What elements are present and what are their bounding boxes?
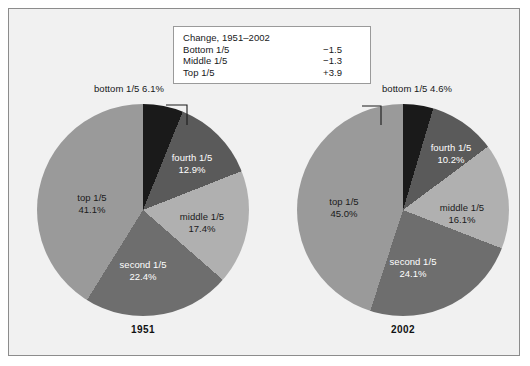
slice-name-middle-2002: middle 1/5 (440, 202, 484, 213)
leader-line-bottom-1951 (165, 95, 205, 127)
legend-value-bottom: −1.5 (323, 44, 362, 56)
slice-pct-fourth-1951: 12.9% (150, 164, 234, 176)
slice-name-second-1951: second 1/5 (120, 259, 167, 270)
legend-title: Change, 1951–2002 (183, 32, 362, 44)
slice-pct-middle-2002: 16.1% (419, 214, 505, 226)
legend-label-bottom: Bottom 1/5 (183, 44, 229, 56)
slice-name-fourth-2002: fourth 1/5 (431, 142, 472, 153)
slice-pct-fourth-2002: 10.2% (409, 154, 493, 166)
legend-label-top: Top 1/5 (183, 67, 215, 79)
leader-line-bottom-2002 (361, 97, 401, 127)
callout-bottom-1951: bottom 1/5 6.1% (91, 83, 167, 95)
slice-pct-middle-1951: 17.4% (159, 223, 245, 235)
slice-label-second-2002: second 1/5 24.1% (369, 256, 457, 279)
slice-label-fourth-2002: fourth 1/5 10.2% (409, 142, 493, 165)
callout-bottom-2002: bottom 1/5 4.6% (379, 83, 455, 95)
pie-chart-1951: fourth 1/5 12.9% middle 1/5 17.4% second… (37, 104, 249, 316)
slice-label-fourth-1951: fourth 1/5 12.9% (150, 152, 234, 175)
legend-row-top: Top 1/5 +3.9 (183, 67, 362, 79)
slice-name-top-2002: top 1/5 (329, 196, 358, 207)
callout-pct-bottom-2002: 4.6% (430, 83, 452, 94)
legend-row-middle: Middle 1/5 −1.3 (183, 55, 362, 67)
slice-label-middle-2002: middle 1/5 16.1% (419, 202, 505, 225)
slice-pct-second-1951: 22.4% (99, 271, 187, 283)
slice-name-top-1951: top 1/5 (77, 192, 106, 203)
slice-label-top-2002: top 1/5 45.0% (309, 196, 379, 219)
pie-year-1951: 1951 (103, 324, 183, 335)
legend-row-bottom: Bottom 1/5 −1.5 (183, 44, 362, 56)
slice-pct-top-2002: 45.0% (309, 208, 379, 220)
slice-label-top-1951: top 1/5 41.1% (57, 192, 127, 215)
slice-label-second-1951: second 1/5 22.4% (99, 259, 187, 282)
legend-value-middle: −1.3 (323, 55, 362, 67)
slice-name-middle-1951: middle 1/5 (180, 211, 224, 222)
pie-year-2002: 2002 (363, 324, 443, 335)
change-legend-box: Change, 1951–2002 Bottom 1/5 −1.5 Middle… (173, 26, 371, 84)
callout-name-bottom-2002: bottom 1/5 (382, 83, 427, 94)
callout-name-bottom-1951: bottom 1/5 (94, 83, 139, 94)
slice-label-middle-1951: middle 1/5 17.4% (159, 211, 245, 234)
slice-pct-second-2002: 24.1% (369, 268, 457, 280)
slice-pct-top-1951: 41.1% (57, 204, 127, 216)
legend-label-middle: Middle 1/5 (183, 55, 227, 67)
figure-panel: Change, 1951–2002 Bottom 1/5 −1.5 Middle… (8, 8, 520, 356)
callout-pct-bottom-1951: 6.1% (142, 83, 164, 94)
slice-name-second-2002: second 1/5 (390, 256, 437, 267)
legend-value-top: +3.9 (323, 67, 362, 79)
pie-chart-2002: fourth 1/5 10.2% middle 1/5 16.1% second… (297, 104, 509, 316)
slice-name-fourth-1951: fourth 1/5 (172, 152, 213, 163)
